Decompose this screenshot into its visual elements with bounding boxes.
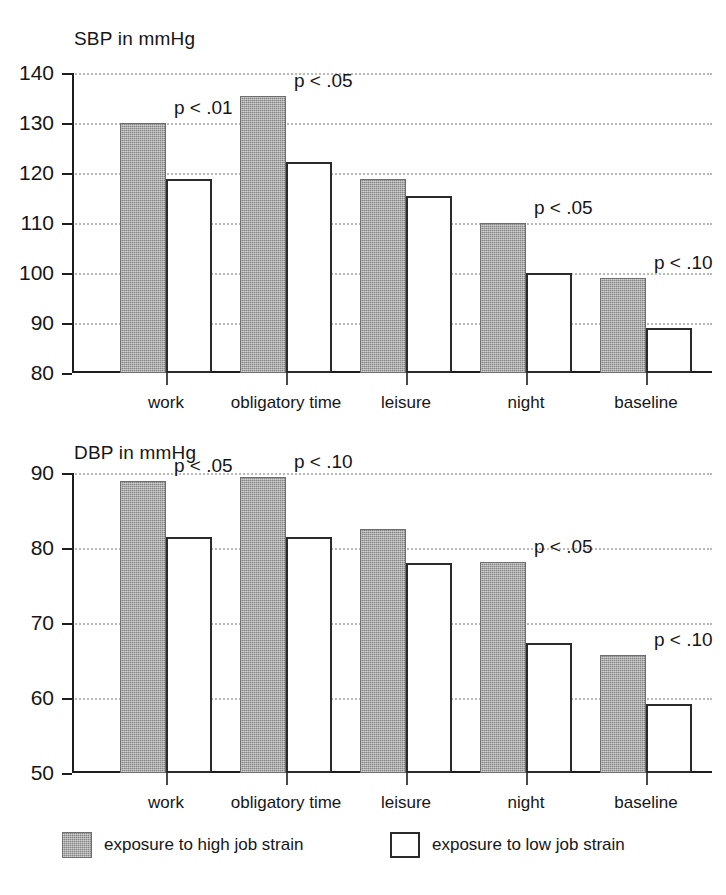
x-axis-label-baseline: baseline: [614, 393, 677, 413]
bar-dbp-leisure-low: [406, 563, 452, 773]
bar-dbp-obligatory-time-high: [240, 477, 286, 773]
bar-dbp-obligatory-time-low: [286, 537, 332, 773]
chart-panel-dbp: DBP in mmHg 5060708090workobligatory tim…: [0, 420, 726, 820]
y-axis-tick: [62, 323, 72, 325]
pvalue-annotation-sbp-work: p < .01: [174, 97, 233, 119]
gridline: [72, 173, 712, 175]
y-axis-tick-label: 80: [31, 361, 54, 385]
bar-sbp-baseline-high: [600, 278, 646, 373]
y-axis-tick-label: 90: [31, 311, 54, 335]
gridline: [72, 123, 712, 125]
x-axis-label-night: night: [508, 393, 545, 413]
bar-sbp-work-high: [120, 123, 166, 373]
bar-sbp-leisure-high: [360, 179, 406, 374]
x-axis-tick: [286, 773, 288, 785]
y-axis-tick: [62, 173, 72, 175]
y-axis-tick: [62, 623, 72, 625]
y-axis-tick: [62, 473, 72, 475]
y-axis-tick-label: 100: [19, 261, 54, 285]
y-axis-tick: [62, 773, 72, 775]
y-axis-tick-label: 70: [31, 611, 54, 635]
legend-entry-low-strain: exposure to low job strain: [390, 832, 625, 858]
bar-dbp-leisure-high: [360, 529, 406, 773]
legend-entry-high-strain: exposure to high job strain: [62, 832, 303, 858]
x-axis-label-night: night: [508, 793, 545, 813]
x-axis-tick: [646, 373, 648, 385]
y-axis-tick: [62, 548, 72, 550]
pvalue-annotation-sbp-obligatory-time: p < .05: [294, 70, 353, 92]
x-axis-label-leisure: leisure: [381, 793, 431, 813]
x-axis-label-obligatory-time: obligatory time: [231, 793, 342, 813]
legend-swatch-low-strain: [390, 832, 420, 858]
x-axis-tick: [166, 773, 168, 785]
plot-area-dbp: 5060708090workobligatory timeleisurenigh…: [72, 473, 712, 773]
pvalue-annotation-dbp-night: p < .05: [534, 536, 593, 558]
x-axis-tick: [526, 773, 528, 785]
y-axis-tick-label: 120: [19, 161, 54, 185]
chart-legend: exposure to high job strain exposure to …: [0, 822, 726, 872]
pvalue-annotation-sbp-night: p < .05: [534, 197, 593, 219]
y-axis-tick: [62, 73, 72, 75]
x-axis-label-leisure: leisure: [381, 393, 431, 413]
bar-dbp-work-low: [166, 537, 212, 773]
y-axis-line: [72, 473, 74, 773]
y-axis-tick: [62, 223, 72, 225]
bar-dbp-night-high: [480, 562, 526, 774]
bar-sbp-obligatory-time-high: [240, 96, 286, 374]
chart-title-sbp: SBP in mmHg: [74, 28, 195, 50]
gridline: [72, 473, 712, 475]
y-axis-tick: [62, 273, 72, 275]
bar-sbp-night-low: [526, 273, 572, 373]
pvalue-annotation-dbp-obligatory-time: p < .10: [294, 451, 353, 473]
x-axis-tick: [526, 373, 528, 385]
y-axis-tick: [62, 373, 72, 375]
y-axis-tick-label: 140: [19, 61, 54, 85]
plot-area-sbp: 8090100110120130140workobligatory timele…: [72, 73, 712, 373]
x-axis-tick: [166, 373, 168, 385]
legend-label-low-strain: exposure to low job strain: [432, 835, 625, 855]
y-axis-tick-label: 60: [31, 686, 54, 710]
legend-swatch-high-strain: [62, 832, 92, 858]
bar-dbp-night-low: [526, 643, 572, 773]
pvalue-annotation-sbp-baseline: p < .10: [654, 252, 713, 274]
y-axis-tick-label: 130: [19, 111, 54, 135]
bar-dbp-work-high: [120, 481, 166, 773]
x-axis-label-work: work: [148, 393, 184, 413]
chart-panel-sbp: SBP in mmHg 8090100110120130140workoblig…: [0, 0, 726, 420]
y-axis-tick-label: 90: [31, 461, 54, 485]
x-axis-label-work: work: [148, 793, 184, 813]
x-axis-tick: [406, 373, 408, 385]
y-axis-tick-label: 50: [31, 761, 54, 785]
pvalue-annotation-dbp-work: p < .05: [174, 455, 233, 477]
gridline: [72, 73, 712, 75]
x-axis-label-baseline: baseline: [614, 793, 677, 813]
bar-sbp-leisure-low: [406, 196, 452, 374]
bar-sbp-night-high: [480, 223, 526, 373]
bar-sbp-baseline-low: [646, 328, 692, 373]
x-axis-tick: [646, 773, 648, 785]
pvalue-annotation-dbp-baseline: p < .10: [654, 629, 713, 651]
y-axis-tick-label: 110: [21, 211, 54, 235]
bar-sbp-obligatory-time-low: [286, 162, 332, 374]
bar-sbp-work-low: [166, 179, 212, 373]
y-axis-line: [72, 73, 74, 373]
x-axis-tick: [406, 773, 408, 785]
y-axis-tick-label: 80: [31, 536, 54, 560]
bar-dbp-baseline-high: [600, 655, 646, 773]
y-axis-tick: [62, 123, 72, 125]
bar-dbp-baseline-low: [646, 704, 692, 773]
legend-label-high-strain: exposure to high job strain: [104, 835, 303, 855]
blood-pressure-bar-chart-figure: SBP in mmHg 8090100110120130140workoblig…: [0, 0, 726, 895]
y-axis-tick: [62, 698, 72, 700]
x-axis-label-obligatory-time: obligatory time: [231, 393, 342, 413]
x-axis-tick: [286, 373, 288, 385]
